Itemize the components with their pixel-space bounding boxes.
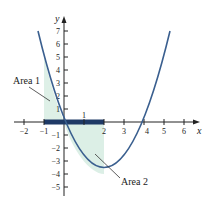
y-axis-label: y xyxy=(54,13,60,24)
y-tick-label: −3 xyxy=(51,157,60,166)
x-tick-label: −1 xyxy=(40,127,49,136)
x-axis-label: x xyxy=(196,125,202,136)
x-tick-label: −2 xyxy=(20,127,29,136)
x-axis-arrow-icon xyxy=(193,120,200,125)
y-tick-label: −2 xyxy=(51,144,60,153)
y-tick-label: 5 xyxy=(56,53,60,62)
y-tick-label: −4 xyxy=(51,170,60,179)
function-graph: −2 −1 1 2 3 4 5 6 x 7 6 5 4 3 2 1 −1 −2 … xyxy=(0,0,212,211)
x-tick-label: 2 xyxy=(102,127,106,136)
x-tick-label: 3 xyxy=(122,127,126,136)
y-tick-label: −5 xyxy=(51,183,60,192)
y-axis-arrow-icon xyxy=(62,16,67,23)
area-2-label: Area 2 xyxy=(121,176,148,187)
y-tick-label: 4 xyxy=(56,66,60,75)
x-tick-label: 4 xyxy=(145,127,149,136)
area-1-label: Area 1 xyxy=(13,75,40,86)
x-tick-label: 5 xyxy=(162,127,166,136)
y-tick-label: 6 xyxy=(56,40,60,49)
y-tick-label: 3 xyxy=(56,79,60,88)
x-tick-label: 6 xyxy=(182,127,186,136)
interval-highlight xyxy=(44,120,104,125)
y-tick-label: 7 xyxy=(56,27,60,36)
y-ticks xyxy=(64,31,68,187)
y-tick-label: −1 xyxy=(51,131,60,140)
x-tick-label: 1 xyxy=(82,111,86,120)
